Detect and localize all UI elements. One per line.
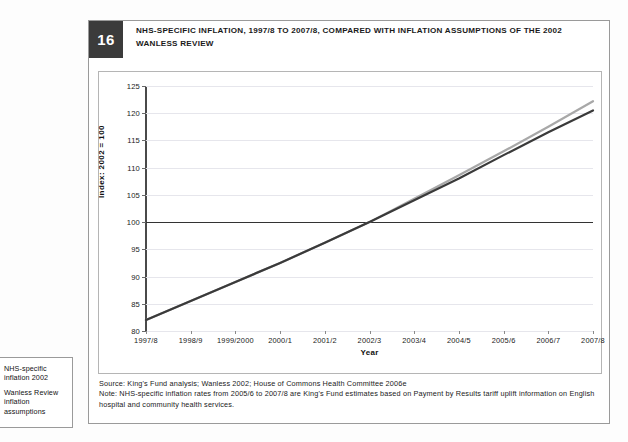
y-tick-label: 120: [127, 109, 140, 118]
figure-notes: Source: King's Fund analysis; Wanless 20…: [99, 379, 599, 410]
y-tick-label: 95: [131, 245, 140, 254]
x-axis-title: Year: [146, 348, 593, 357]
plot-inner: Index: 2002 = 100 8085909510010511011512…: [99, 72, 601, 373]
x-tick-label: 2005/6: [492, 336, 516, 345]
x-tick-mark: [325, 331, 326, 334]
series-line: [146, 101, 593, 320]
y-tick-label: 115: [127, 136, 140, 145]
y-tick-label: 110: [127, 163, 140, 172]
x-tick-mark: [370, 331, 371, 334]
x-tick-mark: [459, 331, 460, 334]
plot-area: 80859095100105110115120125 1997/81998/91…: [146, 86, 593, 331]
x-tick-mark: [593, 331, 594, 334]
legend-item: Wanless Review inflation assumptions: [0, 388, 68, 416]
source-note: Source: King's Fund analysis; Wanless 20…: [99, 379, 599, 389]
y-tick-label: 90: [131, 272, 140, 281]
figure-header: 16 NHS-SPECIFIC INFLATION, 1997/8 TO 200…: [89, 21, 609, 67]
y-axis-title: Index: 2002 = 100: [97, 78, 106, 198]
y-tick-label: 105: [127, 190, 140, 199]
x-tick-label: 2003/4: [402, 336, 426, 345]
x-tick-mark: [414, 331, 415, 334]
y-tick-label: 80: [131, 327, 140, 336]
plot-frame: Index: 2002 = 100 8085909510010511011512…: [98, 71, 602, 374]
x-tick-mark: [280, 331, 281, 334]
x-tick-mark: [146, 331, 147, 334]
legend-item: NHS-specific inflation 2002: [0, 364, 68, 383]
x-tick-mark: [504, 331, 505, 334]
x-tick-label: 2002/3: [358, 336, 382, 345]
x-tick-label: 2001/2: [313, 336, 337, 345]
x-tick-label: 2006/7: [536, 336, 560, 345]
figure-title: NHS-SPECIFIC INFLATION, 1997/8 TO 2007/8…: [123, 21, 609, 50]
x-tick-mark: [191, 331, 192, 334]
legend-label: NHS-specific inflation 2002: [4, 364, 68, 383]
y-tick-label: 125: [127, 82, 140, 91]
figure-page: 16 NHS-SPECIFIC INFLATION, 1997/8 TO 200…: [0, 0, 628, 442]
legend-label: Wanless Review inflation assumptions: [4, 388, 68, 416]
x-tick-label: 2007/8: [581, 336, 605, 345]
x-tick-mark: [548, 331, 549, 334]
x-tick-label: 1997/8: [134, 336, 158, 345]
x-tick-label: 1998/9: [179, 336, 203, 345]
chart-legend: NHS-specific inflation 2002 Wanless Revi…: [0, 357, 73, 428]
x-tick-label: 1999/2000: [217, 336, 254, 345]
figure-number-badge: 16: [89, 21, 123, 58]
series-lines: [146, 86, 593, 331]
series-line: [146, 111, 593, 321]
x-tick-label: 2000/1: [268, 336, 292, 345]
y-tick-label: 100: [127, 218, 140, 227]
y-tick-label: 85: [131, 299, 140, 308]
method-note: Note: NHS-specific inflation rates from …: [99, 389, 599, 410]
x-tick-mark: [235, 331, 236, 334]
x-tick-label: 2004/5: [447, 336, 471, 345]
figure-panel: 16 NHS-SPECIFIC INFLATION, 1997/8 TO 200…: [88, 20, 610, 424]
